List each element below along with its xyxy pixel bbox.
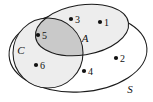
element-dot-4 xyxy=(82,69,86,73)
element-label-4: 4 xyxy=(88,66,93,77)
element-label-1: 1 xyxy=(104,17,109,28)
element-dot-3 xyxy=(69,17,73,21)
element-dot-2 xyxy=(114,56,118,60)
element-label-5: 5 xyxy=(42,30,47,41)
element-label-6: 6 xyxy=(40,60,45,71)
set-label-a: A xyxy=(81,32,89,44)
universe-label-s: S xyxy=(127,83,133,95)
venn-diagram-figure: A C S 3 1 5 6 4 2 xyxy=(0,0,153,102)
element-dot-6 xyxy=(34,63,38,67)
element-label-3: 3 xyxy=(75,14,80,25)
element-label-2: 2 xyxy=(120,53,125,64)
venn-diagram-canvas: A C S 3 1 5 6 4 2 xyxy=(0,0,153,102)
element-dot-1 xyxy=(98,20,102,24)
element-dot-5 xyxy=(36,33,40,37)
set-label-c: C xyxy=(17,44,25,56)
